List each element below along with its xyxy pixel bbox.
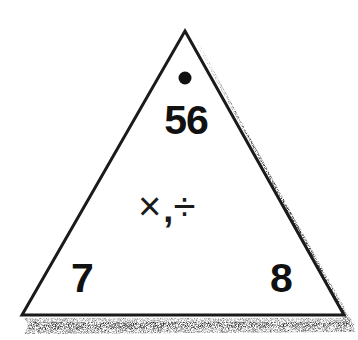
factor-left-value: 7: [71, 258, 94, 299]
factor-right-value: 8: [270, 258, 293, 299]
operations-separator: ,: [163, 189, 173, 230]
operations-label: ×,÷: [138, 186, 195, 226]
product-dot: [179, 72, 192, 85]
product-value: 56: [160, 100, 212, 141]
triangle-graphic: [0, 0, 358, 340]
divide-icon: ÷: [173, 184, 195, 228]
multiply-icon: ×: [138, 184, 161, 228]
